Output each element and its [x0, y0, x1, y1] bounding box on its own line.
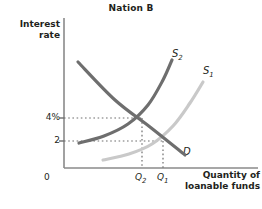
supply-curve-s2: [79, 60, 172, 143]
chart-figure: Nation B Interest rate Quantity of loana…: [0, 0, 262, 209]
supply-curve-s1: [103, 82, 203, 160]
chart-canvas: [0, 0, 262, 209]
